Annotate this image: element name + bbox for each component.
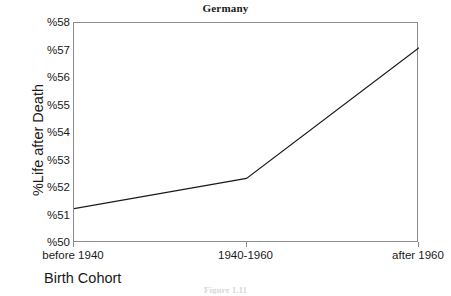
- data-line-svg: [74, 23, 419, 243]
- data-series-line: [74, 48, 419, 209]
- y-tick-label: %58: [24, 16, 70, 28]
- x-tick-label: before 1940: [42, 249, 103, 261]
- x-axis-title: Birth Cohort: [44, 270, 121, 286]
- plot-area: [73, 22, 418, 242]
- x-tick-mark: [418, 242, 419, 247]
- x-tick-label: after 1960: [392, 249, 444, 261]
- y-axis-title: %Life after Death: [30, 45, 46, 235]
- chart-figure: Germany %50%51%52%53%54%55%56%57%58 %Lif…: [0, 0, 451, 296]
- x-tick-mark: [73, 242, 74, 247]
- x-tick-mark: [246, 242, 247, 247]
- y-tick-label: %50: [24, 236, 70, 248]
- figure-caption: Figure 1.11: [0, 285, 451, 294]
- x-tick-label: 1940-1960: [218, 249, 273, 261]
